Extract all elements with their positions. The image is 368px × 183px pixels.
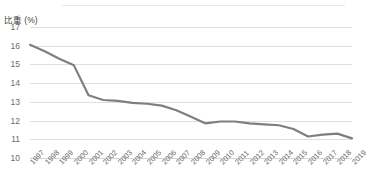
- y-tick-label: 11: [0, 134, 20, 144]
- y-tick-label: 12: [0, 116, 20, 126]
- data-series-line: [30, 27, 352, 158]
- top-divider: [62, 5, 345, 6]
- y-tick-label: 15: [0, 59, 20, 69]
- y-tick-label: 16: [0, 41, 20, 51]
- y-tick-label: 17: [0, 22, 20, 32]
- y-tick-label: 14: [0, 78, 20, 88]
- y-tick-label: 10: [0, 153, 20, 163]
- x-tick-label: 2019: [350, 148, 368, 166]
- x-axis-labels: 1997199819992000200120022003200420052006…: [30, 160, 352, 183]
- series-polyline: [30, 45, 352, 139]
- y-tick-label: 13: [0, 97, 20, 107]
